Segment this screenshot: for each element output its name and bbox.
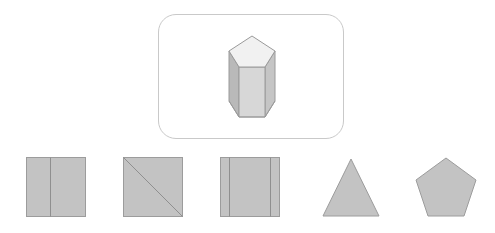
figure-stage: [0, 0, 495, 233]
prism-top-face: [229, 36, 275, 67]
option-3-svg: [218, 150, 284, 220]
option-4-svg: [316, 150, 386, 220]
option-2-svg: [121, 150, 187, 220]
options-row: [0, 150, 495, 233]
triangle-outline: [323, 159, 379, 216]
option-square-diagonal[interactable]: [121, 150, 187, 220]
option-1-svg: [24, 150, 90, 220]
pentagonal-prism-svg: [159, 15, 345, 140]
option-square-two-vertical-lines[interactable]: [218, 150, 284, 220]
prompt-card: [158, 14, 344, 139]
pentagon-outline: [416, 158, 476, 216]
prism-front-face: [239, 67, 265, 117]
option-triangle[interactable]: [316, 150, 386, 220]
option-5-svg: [411, 150, 481, 220]
option-square-one-vertical-line[interactable]: [24, 150, 90, 220]
pentagonal-prism: [159, 15, 345, 140]
option-pentagon[interactable]: [411, 150, 481, 220]
square-outline: [27, 158, 86, 217]
